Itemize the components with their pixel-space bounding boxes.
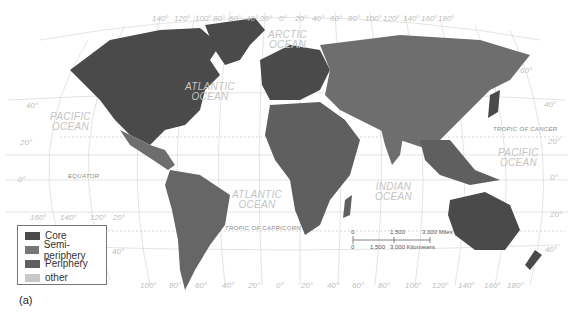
- tropic-of-capricorn-label: TROPIC OF CAPRICORN: [225, 225, 301, 231]
- north-atlantic-ocean-label: ATLANTICOCEAN: [185, 82, 235, 102]
- southeast-asia: [420, 140, 500, 185]
- map-legend: Core Semi-periphery Periphery other: [17, 225, 107, 285]
- greenland: [205, 18, 265, 65]
- scale-bar: 0 1,500 3,000 Miles 0 1,500 3,000 Kilome…: [350, 228, 480, 258]
- core-swatch: [25, 232, 40, 240]
- legend-item-semi-periphery: Semi-periphery: [25, 243, 106, 256]
- japan: [488, 90, 500, 118]
- south-america: [165, 170, 230, 290]
- east-pacific-ocean-label: PACIFICOCEAN: [498, 148, 539, 168]
- arctic-ocean-label: ARCTICOCEAN: [268, 30, 307, 50]
- equator-label: EQUATOR: [68, 173, 99, 179]
- west-pacific-ocean-label: PACIFICOCEAN: [50, 112, 91, 132]
- figure-caption: (a): [19, 294, 32, 306]
- tropic-of-cancer-label: TROPIC OF CANCER: [493, 126, 557, 132]
- scale-bar-lines: [350, 228, 480, 258]
- india: [380, 125, 405, 165]
- madagascar: [343, 195, 352, 218]
- legend-item-other: other: [25, 271, 106, 284]
- europe: [260, 45, 330, 100]
- semi-periphery-swatch: [25, 246, 39, 254]
- south-atlantic-ocean-label: ATLANTICOCEAN: [232, 190, 282, 210]
- indian-ocean-label: INDIANOCEAN: [375, 182, 412, 202]
- new-zealand: [525, 250, 542, 270]
- other-swatch: [25, 274, 40, 282]
- periphery-swatch: [25, 260, 40, 268]
